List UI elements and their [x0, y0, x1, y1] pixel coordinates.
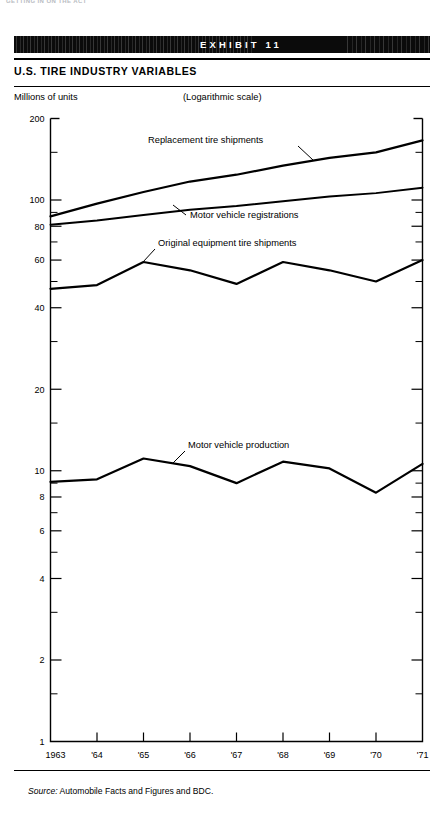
series-line	[51, 260, 423, 289]
source-text: Automobile Facts and Figures and BDC.	[60, 786, 214, 796]
annotation-leader	[298, 146, 313, 160]
y-tick-label: 80	[34, 222, 44, 232]
exhibit-page: GETTING IN ON THE ACT EXHIBIT 11 U.S. TI…	[0, 0, 444, 816]
y-tick-label: 8	[39, 492, 44, 502]
annotation-leader	[143, 249, 155, 262]
y-tick-label: 60	[34, 255, 44, 265]
annotation-leader	[172, 451, 185, 464]
x-tick-label: '66	[184, 750, 196, 760]
x-tick-label: '68	[277, 750, 289, 760]
chart-plot-area: 2001008060402010864211963'64'65'66'67'68…	[0, 0, 444, 816]
series-line	[51, 458, 423, 492]
source-prefix: Source:	[28, 786, 58, 796]
y-tick-label: 10	[34, 466, 44, 476]
divider-bottom	[14, 770, 430, 771]
x-tick-label: 1963	[46, 750, 66, 760]
series-line	[51, 140, 423, 216]
y-tick-label: 100	[29, 195, 44, 205]
series-annotation: Motor vehicle production	[188, 440, 289, 450]
x-tick-label: '65	[138, 750, 150, 760]
y-tick-label: 4	[39, 574, 44, 584]
y-tick-label: 20	[34, 385, 44, 395]
x-tick-label: '64	[91, 750, 103, 760]
source-note: Source: Automobile Facts and Figures and…	[28, 786, 213, 796]
x-tick-label: '67	[231, 750, 243, 760]
series-annotation: Original equipment tire shipments	[158, 238, 297, 248]
y-tick-label: 40	[34, 303, 44, 313]
series-annotation: Motor vehicle registrations	[190, 210, 299, 220]
y-tick-label: 200	[29, 114, 44, 124]
x-tick-label: '69	[324, 750, 336, 760]
line-chart-svg: 2001008060402010864211963'64'65'66'67'68…	[0, 0, 444, 816]
y-tick-label: 2	[39, 655, 44, 665]
y-tick-label: 6	[39, 526, 44, 536]
series-annotation: Replacement tire shipments	[148, 135, 264, 145]
x-tick-label: '71	[417, 750, 429, 760]
y-tick-label: 1	[39, 737, 44, 747]
x-tick-label: '70	[370, 750, 382, 760]
